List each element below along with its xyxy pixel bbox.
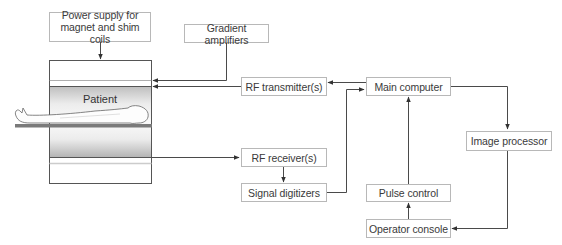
power-supply-box: Power supply for magnet and shim coils bbox=[49, 12, 151, 42]
pulse-control-box: Pulse control bbox=[366, 184, 451, 202]
image-processor-box: Image processor bbox=[466, 131, 552, 151]
operator-console-label: Operator console bbox=[369, 223, 448, 235]
pulse-control-label: Pulse control bbox=[379, 187, 438, 199]
operator-console-box: Operator console bbox=[366, 219, 451, 238]
power-supply-label-line2: magnet and shim coils bbox=[50, 21, 150, 45]
main-computer-label: Main computer bbox=[374, 81, 442, 93]
main-computer-box: Main computer bbox=[366, 77, 451, 96]
rf-receiver-box: RF receiver(s) bbox=[241, 148, 327, 167]
rf-transmitter-box: RF transmitter(s) bbox=[241, 77, 327, 96]
image-processor-label: Image processor bbox=[471, 135, 548, 147]
rf-transmitter-label: RF transmitter(s) bbox=[245, 81, 322, 93]
signal-digitizers-label: Signal digitizers bbox=[248, 187, 320, 199]
rf-receiver-label: RF receiver(s) bbox=[251, 152, 316, 164]
gradient-amplifiers-box: Gradient amplifiers bbox=[184, 24, 269, 43]
gradient-amplifiers-label: Gradient amplifiers bbox=[185, 22, 268, 46]
signal-digitizers-box: Signal digitizers bbox=[241, 183, 327, 202]
patient-table bbox=[15, 124, 152, 128]
power-supply-label-line1: Power supply for bbox=[62, 9, 139, 21]
patient-label: Patient bbox=[49, 93, 151, 105]
